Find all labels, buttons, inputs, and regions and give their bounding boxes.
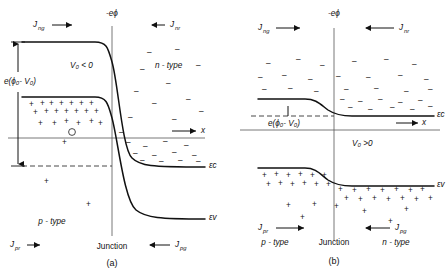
panel-b-junction-label: Junction [319,238,350,247]
svg-text:–: – [374,84,379,93]
svg-text:+: + [266,180,271,189]
svg-text:–: – [172,115,177,124]
svg-text:+: + [362,207,367,216]
svg-text:+: + [404,205,409,214]
svg-text:+: + [322,171,327,180]
panel-b-vertical-axis-label: -eϕ [328,9,340,18]
svg-text:+: + [386,195,391,204]
svg-text:+: + [44,107,49,116]
svg-text:+: + [408,186,413,195]
panel-b-right-region-label: n - type [382,238,410,247]
panel-a-hole-cloud: +++ +++ + +++ +++ + +++ +++ + + + [29,99,103,209]
panel-a-x-axis-label: x [200,126,206,135]
panel-b-valence-band [258,168,434,186]
svg-text:–: – [336,72,341,81]
svg-text:+: + [54,107,59,116]
svg-text:+: + [414,195,419,204]
panel-a-left-region-label: p - type [37,217,66,226]
panel-a-current-Jnr: J nr [152,20,181,30]
panel-a-caption: (a) [107,258,118,268]
svg-text:+: + [64,107,69,116]
panel-a-current-Jng-subscript: ng [38,25,45,31]
svg-text:+: + [298,170,303,179]
panel-b-current-Jng-subscript: ng [263,28,270,34]
svg-text:–: – [128,113,133,122]
panel-a-current-Jpr: J pr [9,240,40,250]
svg-text:–: – [368,105,373,114]
svg-text:+: + [334,202,339,211]
svg-text:–: – [266,59,271,68]
svg-text:–: – [390,103,395,112]
svg-text:–: – [348,103,353,112]
svg-text:+: + [338,185,343,194]
svg-text:+: + [372,194,377,203]
panel-b-caption: (b) [329,256,340,266]
svg-text:–: – [340,95,345,104]
panel-a-barrier-label: e(ϕ₀- V₀) [4,77,36,86]
panel-b-current-Jpg-subscript: pg [399,228,407,234]
svg-text:–: – [428,85,433,94]
svg-text:–: – [184,141,189,150]
svg-text:–: – [308,75,313,84]
svg-text:–: – [428,102,433,111]
svg-text:–: – [166,79,171,88]
svg-text:+: + [326,180,331,189]
svg-text:–: – [196,61,201,70]
svg-text:–: – [358,97,363,106]
svg-text:+: + [290,180,295,189]
svg-text:–: – [412,60,417,69]
panel-b-valence-band-label: εv [437,180,446,189]
band-diagram-svg: -eϕ x e(ϕ₀- V₀) εc εv J ng J nr J [0,0,447,274]
svg-text:–: – [398,71,403,80]
svg-text:+: + [33,108,38,117]
svg-text:+: + [302,179,307,188]
svg-text:+: + [312,200,317,209]
svg-text:+: + [428,194,433,203]
svg-text:+: + [64,117,69,126]
svg-text:–: – [175,45,180,54]
svg-text:+: + [274,170,279,179]
panel-a-conduction-band-label: εc [209,161,217,170]
svg-text:–: – [199,107,204,116]
svg-text:+: + [94,107,99,116]
svg-text:+: + [420,185,425,194]
panel-a: -eϕ x e(ϕ₀- V₀) εc εv J ng J nr J [4,9,218,268]
panel-b-x-axis-label: x [421,118,427,127]
svg-text:–: – [178,156,183,165]
svg-text:–: – [378,95,383,104]
svg-text:+: + [380,186,385,195]
panel-b-current-Jpr-subscript: pr [262,228,269,234]
svg-text:+: + [89,117,94,126]
svg-text:+: + [352,186,357,195]
svg-text:+: + [44,177,49,186]
svg-text:–: – [418,96,423,105]
svg-text:+: + [310,171,315,180]
svg-text:+: + [286,201,291,210]
svg-text:+: + [98,119,103,128]
svg-text:+: + [300,213,305,222]
svg-text:–: – [366,73,371,82]
svg-text:–: – [134,87,139,96]
svg-text:+: + [84,107,89,116]
panel-a-vertical-axis-label: -eϕ [106,9,118,18]
svg-text:–: – [152,99,157,108]
panel-a-right-region-label: n - type [155,61,183,70]
panel-a-circle-annotation [69,129,76,136]
svg-text:–: – [282,71,287,80]
panel-b-conduction-band [258,99,434,116]
panel-b-current-Jpr: J pr [257,223,304,233]
svg-text:–: – [344,85,349,94]
panel-b-current-Jnr: J nr [366,23,410,33]
panel-b-current-Jng: J ng [257,23,300,33]
svg-text:–: – [133,149,138,158]
panel-a-current-Jpg: J pg [150,240,187,250]
svg-text:–: – [410,105,415,114]
svg-text:+: + [366,185,371,194]
svg-text:–: – [352,57,357,66]
svg-text:+: + [76,119,81,128]
svg-text:–: – [186,95,191,104]
panel-a-valence-band-label: εv [209,213,218,222]
svg-text:+: + [86,200,91,209]
svg-text:–: – [384,55,389,64]
svg-text:+: + [394,185,399,194]
